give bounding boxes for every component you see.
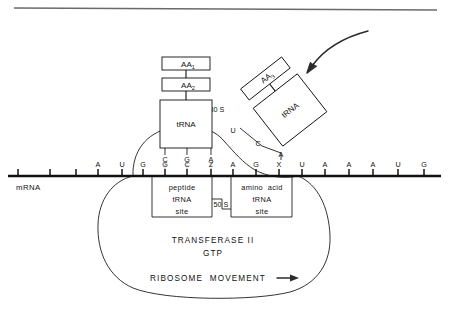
incoming-trna-group: tRNA AA3 [239,56,327,146]
diagram-canvas: AUGGCZAGXUAAAUG mRNA 30 S AA1 AA2 [0,0,449,309]
peptidyl-anticodon-base-1: G [184,155,190,164]
mrna-base-12: U [299,160,304,169]
peptidyl-anticodon-base-2: A [209,155,214,164]
incoming-arrow-shaft [312,31,368,66]
mrna-base-11: X [277,160,282,169]
translation-diagram-figure: AUGGCZAGXUAAAUG mRNA 30 S AA1 AA2 [0,0,449,309]
mrna-base-4: U [119,160,124,169]
mrna-label: mRNA [16,183,41,192]
top-divider-rule [14,8,437,10]
incoming-anticodon-base-1: C [255,139,260,148]
mrna-base-9: A [231,160,236,169]
peptidyl-trna-group: AA1 AA2 tRNA CGA [160,57,214,173]
ribosome-movement-group: RIBOSOME MOVEMENT [150,274,299,283]
mrna-base-letters: AUGGCZAGXUAAAUG [96,160,428,169]
amino-acid-site-line-1: amino acid [241,183,283,192]
incoming-arrow-group [307,31,368,73]
gtp-label: GTP [203,249,223,258]
mrna-base-5: G [140,160,146,169]
amino-acid-site-line-2: tRNA [252,195,271,204]
peptide-site-line-1: peptide [169,183,196,192]
peptidyl-trna-label: tRNA [176,120,196,129]
mrna-base-17: G [421,160,427,169]
amino-acid-site-line-3: site [256,207,269,216]
mrna-base-14: A [347,160,352,169]
incoming-anticodon-base-2: A [279,150,284,159]
movement-arrow-head [290,275,299,282]
incoming-anticodon-base-0: U [230,126,235,135]
mrna-base-3: A [96,160,101,169]
mrna-base-16: U [395,160,400,169]
ribosome-movement-label: RIBOSOME MOVEMENT [150,274,266,283]
aa3-trna-bond [270,84,276,91]
transferase-label: TRANSFERASE II [172,236,255,245]
peptidyl-anticodon-letters: CGA [162,155,213,164]
peptide-site-line-3: site [176,207,189,216]
mrna-base-10: G [253,160,259,169]
peptide-site-line-2: tRNA [172,195,191,204]
peptidyl-anticodon-base-0: C [162,155,167,164]
amino-acid-site-group: amino acid tRNA site [231,177,292,217]
large-subunit-bridge-group: 50 S [212,199,231,209]
peptide-site-group: peptide tRNA site [152,177,212,217]
mrna-base-13: A [323,160,328,169]
mrna-strand-group: AUGGCZAGXUAAAUG mRNA [8,160,441,192]
large-subunit-label: 50 S [214,200,229,209]
mrna-base-15: A [371,160,376,169]
